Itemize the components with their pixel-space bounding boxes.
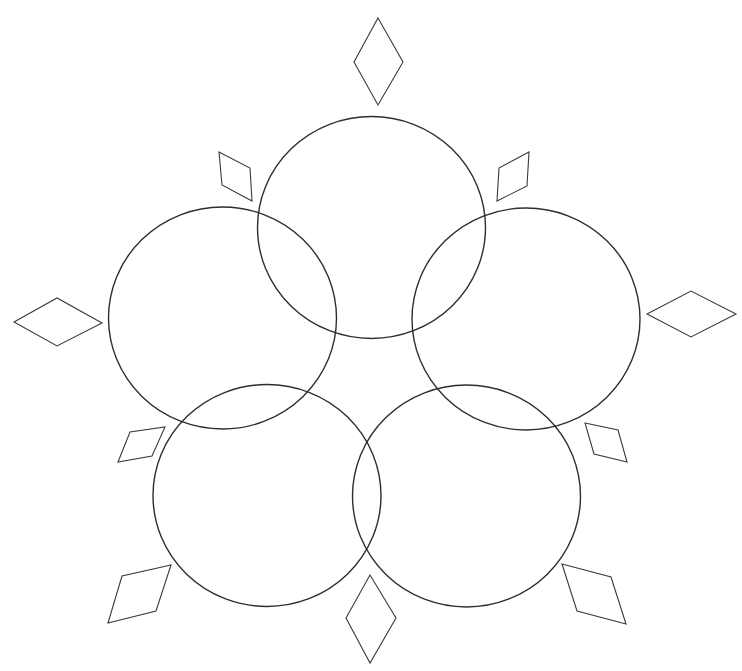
diamond-bottom-left bbox=[108, 565, 171, 623]
diamond-upper-left bbox=[219, 152, 252, 201]
ring-top bbox=[258, 117, 486, 339]
diamond-left bbox=[14, 298, 102, 346]
ring-bottom-left bbox=[153, 385, 381, 607]
diamond-lower-right bbox=[585, 423, 627, 462]
ring-right bbox=[412, 208, 640, 430]
diamond-top bbox=[354, 18, 403, 105]
diamond-right bbox=[647, 291, 736, 337]
flower-diagram bbox=[0, 0, 742, 671]
rings-group bbox=[109, 117, 641, 608]
ring-left bbox=[109, 207, 337, 429]
diamond-upper-right bbox=[497, 152, 529, 201]
ring-bottom-right bbox=[353, 385, 581, 607]
diamond-bottom-right bbox=[562, 564, 626, 624]
diamond-lower-left bbox=[118, 427, 165, 462]
diamond-bottom bbox=[346, 575, 396, 663]
diamonds-group bbox=[14, 18, 736, 663]
